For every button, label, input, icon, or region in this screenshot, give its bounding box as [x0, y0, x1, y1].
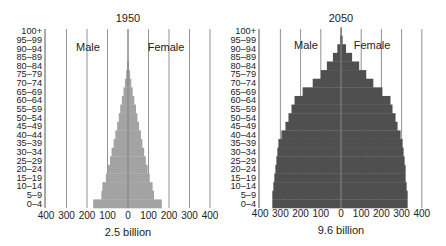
- bars: [272, 27, 407, 208]
- bar-male: [114, 139, 128, 148]
- bar-female: [341, 79, 373, 88]
- x-tick-label: 100: [312, 208, 329, 219]
- female-label: Female: [148, 41, 185, 53]
- bar-female: [341, 148, 404, 157]
- bar-female: [128, 113, 137, 122]
- pyramid-2050: 2050 100+95–9990–9485–8980–8475–7970–746…: [230, 12, 430, 236]
- population-pyramids: 1950 100+95–9990–9485–8980–8475–7970–746…: [0, 0, 446, 246]
- total-label: 2.5 billion: [105, 226, 151, 238]
- bar-male: [285, 122, 341, 131]
- bar-male: [292, 105, 341, 114]
- male-label: Male: [294, 39, 318, 51]
- x-tick-labels: 4003002001000100200300400: [252, 208, 431, 219]
- bar-male: [275, 165, 341, 174]
- bar-male: [278, 139, 341, 148]
- bar-male: [112, 148, 128, 157]
- bar-female: [341, 113, 396, 122]
- bar-female: [341, 105, 393, 114]
- bar-male: [277, 148, 341, 157]
- bar-female: [128, 148, 144, 157]
- bar-female: [128, 79, 131, 88]
- x-tick-label: 200: [373, 208, 390, 219]
- bar-female: [341, 139, 403, 148]
- bar-female: [128, 199, 162, 208]
- bars: [93, 29, 162, 208]
- bar-male: [276, 156, 341, 165]
- x-tick-label: 100: [99, 210, 116, 221]
- x-tick-label: 200: [161, 210, 178, 221]
- bar-male: [119, 113, 128, 122]
- bar-male: [125, 79, 128, 88]
- bar-male: [117, 122, 128, 131]
- bar-female: [128, 191, 154, 200]
- bar-female: [341, 87, 382, 96]
- age-label: 0–4: [27, 199, 42, 209]
- x-tick-label: 200: [79, 210, 96, 221]
- bar-male: [303, 87, 341, 96]
- bar-female: [341, 165, 406, 174]
- bar-male: [288, 113, 341, 122]
- x-tick-label: 400: [38, 210, 55, 221]
- bar-female: [341, 70, 366, 79]
- bar-male: [272, 191, 341, 200]
- bar-female: [128, 130, 141, 139]
- bar-male: [123, 87, 128, 96]
- bar-male: [93, 199, 128, 208]
- bar-female: [128, 87, 133, 96]
- bar-female: [128, 174, 150, 183]
- male-label: Male: [76, 41, 100, 53]
- bar-female: [128, 182, 153, 191]
- total-label: 9.6 billion: [318, 224, 364, 236]
- bar-female: [341, 191, 408, 200]
- x-tick-label: 0: [125, 210, 131, 221]
- bar-male: [281, 130, 341, 139]
- bar-male: [122, 96, 128, 105]
- bar-male: [272, 199, 341, 208]
- bar-female: [341, 96, 390, 105]
- age-labels: 100+95–9990–9485–8980–8475–7970–7465–696…: [16, 26, 42, 208]
- bar-male: [327, 61, 341, 70]
- bar-male: [102, 182, 128, 191]
- bar-female: [341, 122, 398, 131]
- bar-male: [274, 174, 341, 183]
- bar-male: [120, 105, 128, 114]
- bar-male: [273, 182, 341, 191]
- bar-female: [341, 174, 406, 183]
- x-tick-label: 300: [393, 208, 410, 219]
- chart-title: 2050: [329, 12, 353, 24]
- bar-female: [128, 139, 142, 148]
- bar-female: [341, 182, 407, 191]
- pyramid-1950: 1950 100+95–9990–9485–8980–8475–7970–746…: [16, 12, 218, 238]
- x-tick-label: 300: [58, 210, 75, 221]
- bar-male: [115, 130, 128, 139]
- bar-male: [321, 70, 341, 79]
- x-tick-label: 300: [181, 210, 198, 221]
- x-tick-label: 0: [338, 208, 344, 219]
- x-tick-label: 400: [252, 208, 269, 219]
- age-labels: 100+95–9990–9485–8980–8475–7970–7465–696…: [230, 26, 256, 208]
- bar-female: [341, 199, 408, 208]
- bar-female: [128, 165, 148, 174]
- bar-male: [313, 79, 341, 88]
- bar-female: [341, 156, 405, 165]
- bar-female: [128, 156, 146, 165]
- bar-female: [341, 44, 346, 53]
- bar-male: [106, 174, 128, 183]
- chart-title: 1950: [116, 12, 140, 24]
- x-tick-label: 400: [202, 210, 219, 221]
- bar-female: [128, 122, 139, 131]
- bar-female: [128, 96, 134, 105]
- bar-male: [295, 96, 341, 105]
- x-tick-label: 100: [353, 208, 370, 219]
- bar-female: [341, 61, 359, 70]
- x-tick-label: 300: [272, 208, 289, 219]
- bar-male: [101, 191, 128, 200]
- bar-male: [337, 44, 341, 53]
- bar-male: [110, 156, 128, 165]
- female-label: Female: [354, 39, 391, 51]
- bar-female: [341, 53, 352, 62]
- bar-male: [108, 165, 128, 174]
- x-tick-label: 400: [413, 208, 430, 219]
- x-tick-label: 200: [292, 208, 309, 219]
- bar-female: [341, 130, 401, 139]
